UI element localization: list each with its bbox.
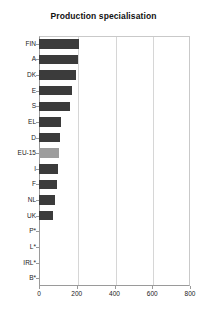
bar-i[interactable] — [39, 164, 58, 174]
category-label-d: D — [0, 134, 36, 142]
category-label-uk: UK — [0, 212, 36, 220]
category-tick — [36, 106, 39, 107]
category-tick — [36, 200, 39, 201]
category-label-s: S — [0, 102, 36, 110]
bar-row — [39, 55, 190, 65]
bar-row — [39, 242, 190, 252]
category-label-el: EL — [0, 118, 36, 126]
category-axis: FINADKESELDEU-15IFNLUKP*L*IRL*B* — [0, 36, 36, 286]
category-label-irl-: IRL* — [0, 259, 36, 267]
bar-fin[interactable] — [39, 39, 79, 49]
bar-a[interactable] — [39, 55, 78, 65]
category-label-f: F — [0, 180, 36, 188]
value-tick-0 — [39, 286, 40, 289]
value-tick-800 — [190, 286, 191, 289]
category-label-fin: FIN — [0, 40, 36, 48]
category-label-e: E — [0, 87, 36, 95]
value-tick-400 — [115, 286, 116, 289]
bar-row — [39, 148, 190, 158]
category-label-a: A — [0, 55, 36, 63]
bar-nl[interactable] — [39, 195, 55, 205]
bar-row — [39, 164, 190, 174]
category-label-p-: P* — [0, 227, 36, 235]
value-tick-600 — [152, 286, 153, 289]
value-tick-label-400: 400 — [109, 290, 120, 297]
category-tick — [36, 278, 39, 279]
bar-row — [39, 227, 190, 237]
bar-row — [39, 180, 190, 190]
bar-row — [39, 258, 190, 268]
bar-row — [39, 273, 190, 283]
category-tick — [36, 263, 39, 264]
bar-row — [39, 211, 190, 221]
bar-dk[interactable] — [39, 70, 76, 80]
chart-title: Production specialisation — [0, 11, 207, 21]
value-tick-label-0: 0 — [37, 290, 41, 297]
bar-eu-15[interactable] — [39, 148, 59, 158]
category-tick — [36, 91, 39, 92]
category-label-eu-15: EU-15 — [0, 149, 36, 157]
bar-row — [39, 133, 190, 143]
bar-uk[interactable] — [39, 211, 53, 221]
value-tick-label-800: 800 — [185, 290, 196, 297]
value-tick-label-600: 600 — [147, 290, 158, 297]
category-label-dk: DK — [0, 71, 36, 79]
bar-row — [39, 86, 190, 96]
value-tick-label-200: 200 — [71, 290, 82, 297]
category-tick — [36, 59, 39, 60]
category-tick — [36, 231, 39, 232]
category-tick — [36, 138, 39, 139]
bar-row — [39, 195, 190, 205]
category-tick — [36, 169, 39, 170]
bar-f[interactable] — [39, 180, 57, 190]
bar-row — [39, 102, 190, 112]
category-tick — [36, 153, 39, 154]
bar-row — [39, 70, 190, 80]
category-tick — [36, 75, 39, 76]
production-specialisation-chart: Production specialisation FINADKESELDEU-… — [0, 0, 207, 318]
category-tick — [36, 247, 39, 248]
bar-row — [39, 39, 190, 49]
bar-e[interactable] — [39, 86, 72, 96]
category-label-nl: NL — [0, 196, 36, 204]
category-tick — [36, 184, 39, 185]
category-label-b-: B* — [0, 274, 36, 282]
category-tick — [36, 44, 39, 45]
bars-layer — [39, 36, 190, 286]
value-axis: 0200400600800 — [0, 286, 207, 306]
bar-s[interactable] — [39, 102, 70, 112]
bar-row — [39, 117, 190, 127]
category-label-i: I — [0, 165, 36, 173]
category-tick — [36, 122, 39, 123]
value-tick-200 — [77, 286, 78, 289]
category-label-l-: L* — [0, 243, 36, 251]
bar-d[interactable] — [39, 133, 60, 143]
category-tick — [36, 216, 39, 217]
bar-el[interactable] — [39, 117, 61, 127]
